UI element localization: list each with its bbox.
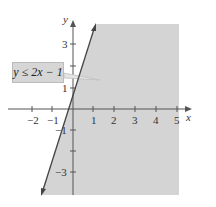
- y-tick-label: −3: [55, 166, 67, 178]
- inequality-label: y ≤ 2x − 1: [12, 62, 64, 83]
- x-tick-label: 4: [153, 114, 159, 126]
- y-tick-label: 1: [62, 82, 68, 94]
- x-tick-label: 2: [111, 114, 117, 126]
- x-tick-label: 5: [174, 114, 180, 126]
- x-axis-label: x: [185, 111, 191, 123]
- y-axis-label: y: [62, 13, 68, 25]
- inequality-graph: −2 −1 1 2 3 4 5 3 1 −1 −3 x y: [0, 0, 216, 207]
- x-tick-label: −2: [27, 114, 39, 126]
- y-tick-label: 3: [62, 38, 68, 50]
- x-tick-label: 3: [132, 114, 138, 126]
- line-arrow-top-icon: [91, 23, 96, 31]
- y-axis-arrow-icon: [70, 20, 76, 27]
- x-tick-label: 1: [91, 114, 97, 126]
